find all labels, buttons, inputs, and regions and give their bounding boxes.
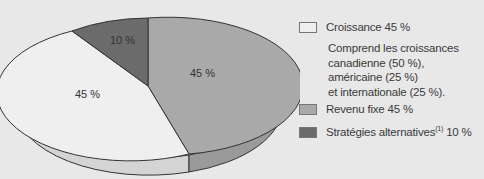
footnote-marker: (1) — [435, 125, 443, 132]
legend-label-revenu-fixe: Revenu fixe 45 % — [326, 102, 413, 116]
legend-note-line: canadienne (50 %), — [328, 56, 484, 71]
legend-swatch-revenu-fixe — [299, 104, 317, 115]
legend-label-croissance: Croissance 45 % — [326, 20, 410, 34]
legend-item-strategies-alternatives: Stratégies alternatives(1) 10 % — [299, 125, 472, 139]
legend-swatch-strategies — [299, 127, 317, 138]
legend-swatch-croissance — [299, 22, 317, 33]
legend-note: Comprend les croissances canadienne (50 … — [328, 41, 484, 99]
legend-label-strategies: Stratégies alternatives(1) 10 % — [326, 125, 472, 139]
legend-note-line: américaine (25 %) — [328, 70, 484, 85]
legend-item-croissance: Croissance 45 % — [299, 20, 410, 34]
pie-chart: 10 % 45 % 45 % — [0, 0, 300, 179]
slice-label-revenu-fixe: 45 % — [190, 67, 215, 79]
slice-label-strategies: 10 % — [110, 34, 135, 46]
legend-item-revenu-fixe: Revenu fixe 45 % — [299, 102, 413, 116]
slice-label-croissance: 45 % — [75, 88, 100, 100]
legend-note-line: Comprend les croissances — [328, 41, 484, 56]
legend-note-line: et internationale (25 %). — [328, 85, 484, 100]
